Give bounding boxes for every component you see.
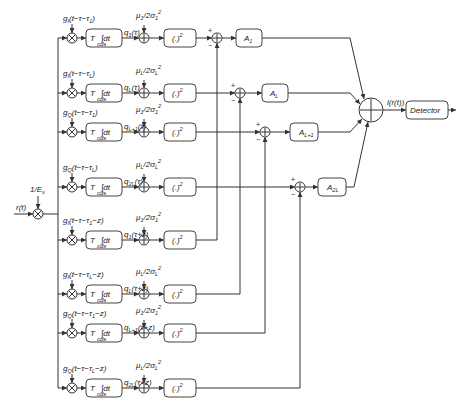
integrator-label: ∫dt (100, 34, 111, 43)
integrator-label: ∫dt (100, 128, 111, 137)
bias-label: μ1​/2σ1​2​ (135, 9, 161, 21)
minus-sign: − (208, 42, 212, 49)
delayed-branch-wire (196, 43, 217, 240)
correlator-output-label: qL+1​(τ) (124, 122, 146, 132)
plus-sign: + (231, 82, 235, 89)
minus-sign: − (231, 97, 235, 104)
correlator-output-label: q1​(τ) (124, 28, 140, 38)
decision-statistic-label: l(r(t)) (387, 98, 405, 107)
minus-sign: − (291, 191, 295, 198)
delayed-branch-wire (196, 192, 300, 388)
bias-label: μL​/2σL​2​ (135, 265, 161, 277)
integrator-label: ∫dt (100, 236, 111, 245)
bias-label: μL​/2σL​2​ (135, 359, 161, 371)
bias-label: μ1​/2σ1​2​ (135, 211, 161, 223)
plus-sign: + (208, 27, 212, 34)
reference-signal-label: gQ​(t−τ−τ1​−z) (63, 309, 107, 319)
input-label: r(t) (16, 203, 27, 212)
correlator-output-label: q1​(τ+z) (124, 230, 149, 240)
bias-label: μL​/2σL​2​ (135, 158, 161, 170)
detector-label: Detector (410, 106, 441, 115)
integrator-label: ∫dt (100, 290, 111, 299)
reference-signal-label: gI​(t−τ−τ1​−z) (63, 216, 104, 226)
correlator-output-label: q2L​(τ) (124, 177, 143, 187)
integrator-label: ∫dt (100, 329, 111, 338)
scale-label: 1/Es​ (30, 185, 45, 195)
gain-output-wire (318, 119, 362, 132)
reference-signal-label: gQ​(t−τ−τL​) (63, 163, 98, 173)
bias-label: μ1​/2σ1​2​ (135, 103, 161, 115)
reference-signal-label: gQ​(t−τ−τ1​) (63, 108, 98, 118)
receiver-block-diagram: r(t)1/Es​gI​(t−τ−τ1​)Tcds∫dtq1​(τ)μ1​/2σ… (0, 0, 457, 413)
delayed-branch-wire (196, 98, 240, 294)
minus-sign: − (256, 136, 260, 143)
integrator-label: ∫dt (100, 183, 111, 192)
correlator-output-label: qL​(τ) (124, 83, 140, 93)
correlator-output-label: qL+1​(τ+z) (124, 323, 155, 333)
plus-sign: + (256, 121, 260, 128)
gain-output-wire (288, 93, 360, 104)
reference-signal-label: gQ​(t−τ−τL​−z) (63, 364, 107, 374)
integrator-label: ∫dt (100, 384, 111, 393)
plus-sign: + (291, 176, 295, 183)
bias-label: μ1​/2σ1​2​ (135, 304, 161, 316)
correlator-output-label: qL​(τ+z) (124, 284, 149, 294)
delayed-branch-wire (196, 137, 265, 333)
bias-label: μL​/2σL​2​ (135, 64, 161, 76)
reference-signal-label: gI​(t−τ−τ1​) (63, 14, 95, 24)
integrator-label: ∫dt (100, 89, 111, 98)
reference-signal-label: gI​(t−τ−τL​−z) (63, 270, 104, 280)
reference-signal-label: gI​(t−τ−τL​) (63, 69, 95, 79)
correlator-output-label: q2L​(τ+z) (124, 378, 152, 388)
